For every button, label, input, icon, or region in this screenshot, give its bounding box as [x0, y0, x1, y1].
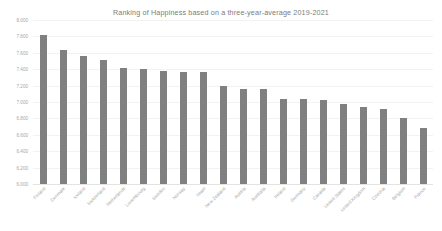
y-tick-label: 6.000: [17, 182, 29, 187]
x-tick-label: Switzerland: [86, 186, 107, 207]
y-tick-label: 7.800: [17, 34, 29, 39]
y-tick-label: 7.400: [17, 67, 29, 72]
bar[interactable]: [300, 99, 307, 184]
x-tick-label: Czechia: [371, 186, 387, 202]
bar[interactable]: [60, 50, 67, 184]
bar[interactable]: [340, 104, 347, 184]
bar[interactable]: [140, 69, 147, 184]
x-tick-label: Norway: [172, 186, 187, 201]
chart-title: Ranking of Happiness based on a three-ye…: [0, 8, 442, 17]
x-axis: FinlandDenmarkIcelandSwitzerlandNetherla…: [33, 184, 433, 231]
x-tick-label: Israel: [195, 186, 207, 198]
bar[interactable]: [40, 35, 47, 184]
bar[interactable]: [400, 118, 407, 184]
bar[interactable]: [320, 100, 327, 184]
bar[interactable]: [220, 86, 227, 184]
bar[interactable]: [280, 99, 287, 184]
bar[interactable]: [240, 89, 247, 184]
bar[interactable]: [380, 109, 387, 184]
bar[interactable]: [200, 72, 207, 184]
x-tick-label: Sweden: [151, 186, 167, 202]
bar[interactable]: [360, 107, 367, 184]
x-tick-label: Austria: [233, 186, 247, 200]
bars-layer: [33, 20, 433, 184]
x-tick-label: France: [413, 186, 427, 200]
y-tick-label: 7.200: [17, 83, 29, 88]
y-tick-label: 7.600: [17, 50, 29, 55]
bar[interactable]: [260, 89, 267, 184]
x-tick-label: Finland: [32, 186, 46, 200]
y-tick-label: 6.600: [17, 132, 29, 137]
happiness-ranking-chart: Ranking of Happiness based on a three-ye…: [0, 0, 442, 231]
x-tick-label: Luxembourg: [125, 186, 147, 208]
y-tick-label: 6.400: [17, 149, 29, 154]
bar[interactable]: [80, 56, 87, 184]
y-axis: 8.0007.8007.6007.4007.2007.0006.8006.600…: [0, 20, 31, 184]
bar[interactable]: [160, 71, 167, 184]
y-tick-label: 7.000: [17, 100, 29, 105]
y-tick-label: 6.200: [17, 165, 29, 170]
x-tick-label: Canada: [312, 186, 327, 201]
x-tick-label: Denmark: [50, 186, 67, 203]
bar[interactable]: [180, 72, 187, 184]
y-tick-label: 6.800: [17, 116, 29, 121]
bar[interactable]: [420, 128, 427, 184]
x-tick-label: Germany: [290, 186, 307, 203]
bar[interactable]: [100, 60, 107, 184]
x-tick-label: Iceland: [73, 186, 87, 200]
x-tick-label: Ireland: [273, 186, 287, 200]
x-tick-label: Australia: [250, 186, 266, 202]
y-tick-label: 8.000: [17, 18, 29, 23]
bar[interactable]: [120, 68, 127, 184]
x-tick-label: Belgium: [391, 186, 407, 202]
